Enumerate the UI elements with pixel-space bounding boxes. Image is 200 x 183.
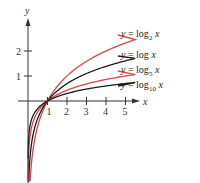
- x-axis-label: x: [142, 96, 148, 107]
- series-label: y = log10 x: [121, 79, 163, 93]
- series-label-prefix: y = log: [121, 28, 149, 39]
- x-tick-label: 5: [123, 106, 128, 117]
- y-axis-label: y: [24, 5, 30, 16]
- log-functions-chart: 1234512 y x: [0, 0, 200, 183]
- x-axis-arrow-icon: [132, 99, 140, 104]
- x-tick-label: 1: [47, 106, 52, 117]
- x-tick-label: 2: [64, 106, 69, 117]
- y-tick-label: 1: [16, 71, 21, 82]
- series-label: y = log2 x: [121, 28, 159, 42]
- curve-y-log-x: [29, 56, 135, 182]
- series-label-var: x: [149, 49, 156, 60]
- y-axis-arrow-icon: [26, 18, 31, 26]
- series-label-base: 10: [149, 85, 156, 93]
- x-tick-label: 4: [103, 106, 108, 117]
- series-label-var: x: [152, 28, 159, 39]
- series-label-var: x: [152, 64, 159, 75]
- series-label-var: x: [156, 79, 163, 90]
- series-label-prefix: y = log: [121, 49, 149, 60]
- series-label: y = log x: [121, 49, 156, 60]
- series-label: y = log5 x: [121, 64, 159, 78]
- y-tick-label: 2: [16, 46, 21, 57]
- series-label-prefix: y = log: [121, 64, 149, 75]
- x-tick-label: 3: [84, 106, 89, 117]
- curve-y-log5-x: [28, 71, 135, 182]
- curves-group: [28, 35, 135, 182]
- series-label-prefix: y = log: [121, 79, 149, 90]
- curve-y-log10-x: [28, 82, 135, 158]
